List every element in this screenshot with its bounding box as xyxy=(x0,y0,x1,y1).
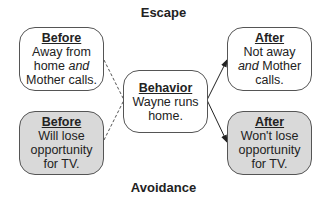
dashed-link-before-escape xyxy=(104,60,124,100)
node-heading: Before xyxy=(42,115,82,129)
arrow-to-after-avoid xyxy=(207,100,227,142)
node-text: Wayne runs xyxy=(132,95,198,109)
node-text: Will lose xyxy=(38,129,85,143)
node-heading: After xyxy=(255,31,284,45)
node-text: Not away xyxy=(243,45,295,59)
before-escape-node: Before Away from home and Mother calls. xyxy=(19,27,104,91)
node-text: home. xyxy=(148,109,183,123)
dashed-link-before-avoid xyxy=(104,100,124,140)
node-heading: Behavior xyxy=(139,81,193,95)
node-text: for TV. xyxy=(251,157,287,171)
after-escape-node: After Not away and Mother calls. xyxy=(227,27,312,91)
node-text: opportunity xyxy=(31,143,93,157)
node-text: Won't lose xyxy=(241,129,299,143)
node-heading: Before xyxy=(42,31,82,45)
node-text: calls. xyxy=(255,73,283,87)
node-text: Mother calls. xyxy=(26,73,97,87)
node-text: for TV. xyxy=(43,157,79,171)
node-text: and Mother xyxy=(238,59,301,73)
node-text: opportunity xyxy=(239,143,301,157)
node-heading: After xyxy=(255,115,284,129)
before-avoidance-node: Before Will lose opportunity for TV. xyxy=(19,111,104,175)
node-text: home and xyxy=(34,59,90,73)
after-avoidance-node: After Won't lose opportunity for TV. xyxy=(227,111,312,175)
behavior-node: Behavior Wayne runs home. xyxy=(123,70,208,133)
node-text: Away from xyxy=(32,45,91,59)
arrow-to-after-escape xyxy=(207,60,227,100)
